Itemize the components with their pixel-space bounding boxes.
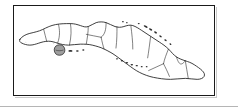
isla-de-la-juventud	[54, 45, 65, 56]
mainland-coastline	[20, 22, 205, 79]
figure-root	[0, 0, 238, 110]
map-frame	[13, 5, 215, 96]
cuba-outline-map	[14, 6, 214, 95]
bottom-divider-rule	[0, 106, 238, 107]
cay-group-south-southwest	[68, 49, 84, 52]
